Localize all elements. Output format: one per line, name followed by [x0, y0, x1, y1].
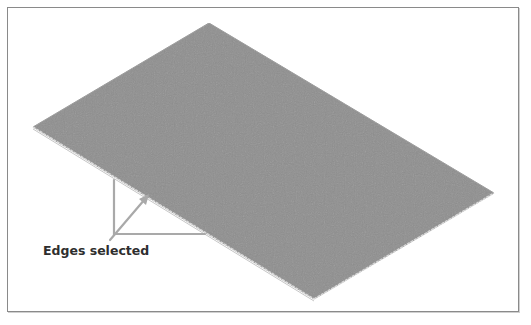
plate-diagram [0, 0, 531, 325]
edges-selected-label: Edges selected [43, 243, 149, 258]
